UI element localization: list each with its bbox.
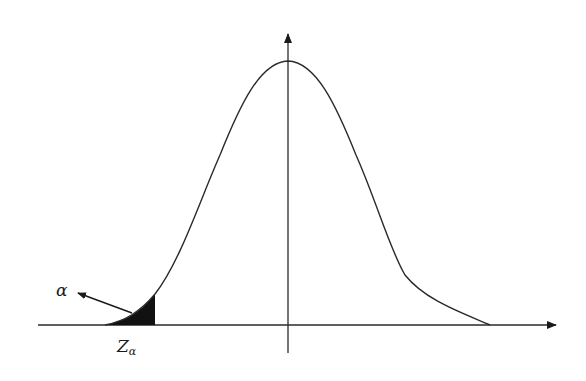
normal-distribution-diagram: α Zα [0, 0, 586, 381]
bell-curve [105, 61, 490, 325]
z-alpha-label: Zα [116, 336, 137, 358]
shaded-tail-region [105, 294, 155, 325]
alpha-label: α [56, 280, 68, 300]
alpha-pointer-arrow [78, 293, 132, 313]
z-subscript: α [129, 345, 137, 358]
